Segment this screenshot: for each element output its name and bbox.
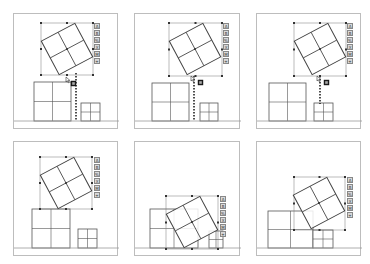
resize-handle[interactable]	[195, 75, 197, 77]
rotated-grid-square[interactable]	[41, 23, 92, 74]
style-icon[interactable]: B	[347, 184, 353, 190]
link-icon[interactable]: M	[347, 51, 353, 57]
link-icon[interactable]: M	[347, 205, 353, 211]
style-icon[interactable]: B	[347, 30, 353, 36]
resize-handle[interactable]	[168, 75, 170, 77]
resize-handle[interactable]	[66, 22, 68, 24]
resize-handle[interactable]	[40, 48, 42, 50]
more-icon[interactable]: +	[220, 231, 226, 237]
more-icon[interactable]: +	[347, 212, 353, 218]
format-icon[interactable]: %	[94, 37, 100, 43]
resize-handle[interactable]	[191, 195, 193, 197]
resize-handle[interactable]	[344, 229, 346, 231]
resize-handle[interactable]	[39, 156, 41, 158]
text-icon[interactable]: A	[94, 23, 100, 29]
panel-step-1: AB%XM+	[13, 13, 118, 129]
resize-handle[interactable]	[65, 208, 67, 210]
crop-icon[interactable]: X	[223, 44, 229, 50]
canvas[interactable]	[14, 142, 119, 257]
link-icon[interactable]: M	[223, 51, 229, 57]
small-square[interactable]	[313, 230, 333, 248]
resize-handle[interactable]	[293, 75, 295, 77]
resize-handle[interactable]	[293, 49, 295, 51]
big-square[interactable]	[269, 83, 306, 121]
style-icon[interactable]: B	[223, 30, 229, 36]
resize-handle[interactable]	[195, 22, 197, 24]
resize-handle[interactable]	[319, 75, 321, 77]
resize-handle[interactable]	[91, 156, 93, 158]
resize-handle[interactable]	[168, 22, 170, 24]
text-icon[interactable]: A	[220, 196, 226, 202]
text-icon[interactable]: A	[223, 23, 229, 29]
text-icon[interactable]: A	[347, 23, 353, 29]
more-icon[interactable]: +	[347, 58, 353, 64]
style-icon[interactable]: B	[220, 203, 226, 209]
resize-handle[interactable]	[168, 49, 170, 51]
small-square[interactable]	[81, 103, 100, 121]
text-icon[interactable]: A	[94, 157, 100, 163]
crop-icon[interactable]: X	[94, 44, 100, 50]
resize-handle[interactable]	[293, 229, 295, 231]
resize-handle[interactable]	[344, 203, 346, 205]
big-square[interactable]	[32, 209, 70, 248]
panel-step-2: AB%XM+	[134, 13, 240, 129]
style-icon[interactable]: B	[94, 30, 100, 36]
floating-toolbar: AB%XM+	[347, 23, 353, 64]
resize-handle[interactable]	[91, 208, 93, 210]
resize-handle[interactable]	[66, 74, 68, 76]
resize-handle[interactable]	[165, 248, 167, 250]
resize-handle[interactable]	[221, 75, 223, 77]
resize-handle[interactable]	[217, 222, 219, 224]
more-icon[interactable]: +	[94, 192, 100, 198]
resize-handle[interactable]	[319, 229, 321, 231]
resize-handle[interactable]	[319, 176, 321, 178]
resize-handle[interactable]	[217, 248, 219, 250]
rotated-grid-square[interactable]	[40, 157, 91, 208]
resize-handle[interactable]	[191, 248, 193, 250]
resize-handle[interactable]	[40, 74, 42, 76]
small-square[interactable]	[78, 229, 97, 248]
resize-handle[interactable]	[345, 75, 347, 77]
panel-step-5: AB%XM+	[134, 141, 240, 256]
style-icon[interactable]: B	[94, 164, 100, 170]
resize-handle[interactable]	[344, 176, 346, 178]
crop-icon[interactable]: X	[220, 217, 226, 223]
resize-handle[interactable]	[91, 182, 93, 184]
canvas[interactable]	[14, 14, 119, 130]
resize-handle[interactable]	[65, 156, 67, 158]
format-icon[interactable]: %	[94, 171, 100, 177]
text-icon[interactable]: A	[347, 177, 353, 183]
rotated-grid-square[interactable]	[169, 23, 220, 74]
rotated-grid-square[interactable]	[294, 23, 345, 74]
resize-handle[interactable]	[293, 203, 295, 205]
resize-handle[interactable]	[40, 22, 42, 24]
format-icon[interactable]: %	[220, 210, 226, 216]
panel-step-3: AB%XM+	[256, 13, 361, 129]
floating-toolbar: AB%XM+	[347, 177, 353, 218]
resize-handle[interactable]	[217, 195, 219, 197]
resize-handle[interactable]	[319, 22, 321, 24]
link-icon[interactable]: M	[94, 185, 100, 191]
resize-handle[interactable]	[293, 176, 295, 178]
format-icon[interactable]: %	[347, 191, 353, 197]
resize-handle[interactable]	[165, 195, 167, 197]
format-icon[interactable]: %	[347, 37, 353, 43]
crop-icon[interactable]: X	[347, 44, 353, 50]
resize-handle[interactable]	[165, 222, 167, 224]
resize-handle[interactable]	[293, 22, 295, 24]
resize-handle[interactable]	[92, 74, 94, 76]
big-square[interactable]	[152, 83, 189, 121]
link-icon[interactable]: M	[94, 51, 100, 57]
resize-handle[interactable]	[39, 182, 41, 184]
crop-icon[interactable]: X	[347, 198, 353, 204]
small-square[interactable]	[200, 103, 218, 121]
crop-icon[interactable]: X	[94, 178, 100, 184]
format-icon[interactable]: %	[223, 37, 229, 43]
link-icon[interactable]: M	[220, 224, 226, 230]
more-icon[interactable]: +	[94, 58, 100, 64]
panel-step-4: AB%XM+	[13, 141, 118, 256]
more-icon[interactable]: +	[223, 58, 229, 64]
resize-handle[interactable]	[39, 208, 41, 210]
small-square[interactable]	[314, 103, 333, 121]
big-square[interactable]	[34, 82, 71, 121]
